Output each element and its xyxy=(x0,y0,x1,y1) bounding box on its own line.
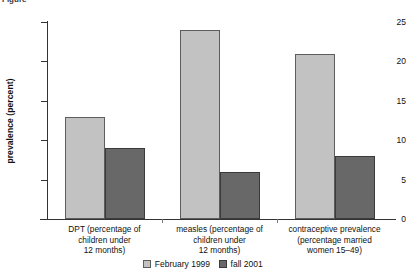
legend-swatch xyxy=(143,260,151,268)
category-label-line: children under xyxy=(162,235,277,246)
category-label-line: contraceptive prevalence xyxy=(277,224,392,235)
category-label-line: women 15–49) xyxy=(277,245,392,256)
legend-item: fall 2001 xyxy=(219,259,263,269)
x-axis-line xyxy=(40,219,396,220)
y-axis-tick xyxy=(41,219,47,220)
x-axis-category-label: measles (percentage ofchildren under12 m… xyxy=(162,224,277,256)
legend-label: fall 2001 xyxy=(231,259,263,269)
category-label-line: children under xyxy=(47,235,162,246)
y-axis-title-text: prevalence (percent) xyxy=(5,78,15,163)
legend-swatch xyxy=(219,260,227,268)
bar xyxy=(105,148,145,219)
legend-item: February 1999 xyxy=(143,259,210,269)
category-label-line: 12 months) xyxy=(162,245,277,256)
category-label-line: 12 months) xyxy=(47,245,162,256)
bar xyxy=(65,117,105,219)
category-label-line: (percentage married xyxy=(277,235,392,246)
x-axis-separator-tick xyxy=(162,219,163,223)
x-axis-category-label: contraceptive prevalence(percentage marr… xyxy=(277,224,392,256)
x-axis-category-label: DPT (percentage ofchildren under12 month… xyxy=(47,224,162,256)
category-label-line: measles (percentage of xyxy=(162,224,277,235)
legend-label: February 1999 xyxy=(155,259,210,269)
plot-area xyxy=(47,22,392,219)
x-axis-separator-tick xyxy=(277,219,278,223)
chart-legend: February 1999fall 2001 xyxy=(0,259,406,269)
bar xyxy=(220,172,260,219)
y-axis-title: prevalence (percent) xyxy=(3,22,17,219)
bar xyxy=(295,54,335,219)
bar-chart-figure: prevalence (percent) 0510152025 DPT (per… xyxy=(0,0,406,276)
bar xyxy=(180,30,220,219)
bar xyxy=(335,156,375,219)
category-label-line: DPT (percentage of xyxy=(47,224,162,235)
